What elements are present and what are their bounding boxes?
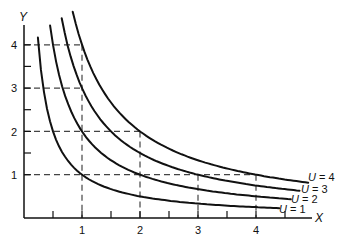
ticks [24,45,285,218]
x-axis-label: X [314,211,324,225]
x-tick-label-3: 3 [195,224,201,236]
u-value: = 4 [316,171,335,183]
y-tick-labels: 1 2 3 4 [11,39,17,181]
curve-label-u4: U = 4 [308,171,335,183]
axes [24,25,312,218]
x-tick-labels: 1 2 3 4 [79,224,259,236]
curve-u3 [62,18,300,191]
y-tick-label-1: 1 [11,169,17,181]
x-tick-label-2: 2 [137,224,143,236]
x-tick-label-1: 1 [79,224,85,236]
curves [38,12,308,208]
indifference-curves-chart: 1 2 3 4 1 2 3 4 Y X U = 4 U = 3 U = 2 U … [0,0,343,242]
curve-u2 [50,26,291,200]
y-tick-label-3: 3 [11,82,17,94]
u-value: = 1 [287,203,306,215]
curve-label-u1: U = 1 [279,203,306,215]
y-tick-label-2: 2 [11,126,17,138]
y-axis-label: Y [19,10,28,24]
x-tick-label-4: 4 [253,224,259,236]
u-symbol: U [308,171,316,183]
u-symbol: U [279,203,287,215]
y-tick-label-4: 4 [11,39,17,51]
